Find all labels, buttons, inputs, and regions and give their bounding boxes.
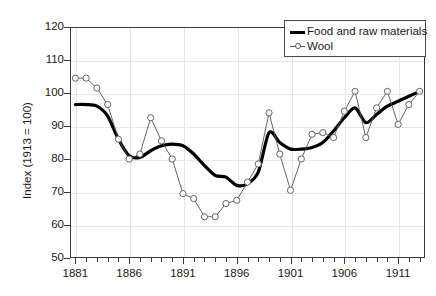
y-axis-tick-mark: [64, 192, 70, 193]
x-axis-tick-mark-minor: [86, 258, 87, 262]
gridline-vertical: [238, 28, 239, 257]
x-axis-tick-mark-minor: [97, 258, 98, 262]
x-axis-tick-mark-minor: [204, 258, 205, 262]
x-axis-tick-mark-minor: [226, 258, 227, 262]
gridline-vertical: [76, 28, 77, 257]
y-axis-tick-mark: [64, 225, 70, 226]
x-axis-tick-label: 1891: [160, 267, 206, 279]
y-axis-tick-label: 90: [24, 120, 64, 132]
y-axis-tick-label: 80: [24, 153, 64, 165]
x-axis-tick-mark-minor: [334, 258, 335, 262]
gridline-vertical: [399, 28, 400, 257]
y-axis-tick-mark: [64, 60, 70, 61]
x-axis-tick-mark: [398, 258, 399, 264]
gridline-vertical: [292, 28, 293, 257]
y-axis-tick-label: 70: [24, 186, 64, 198]
x-axis-tick-mark: [291, 258, 292, 264]
legend-label-wool: Wool: [307, 40, 333, 53]
x-axis-tick-label: 1886: [106, 267, 152, 279]
x-axis-tick-label: 1906: [321, 267, 367, 279]
x-axis-tick-mark-minor: [258, 258, 259, 262]
circle-marker-line-icon: [289, 40, 307, 54]
x-axis-tick-mark-minor: [172, 258, 173, 262]
y-axis-tick-label: 50: [24, 252, 64, 264]
chart-figure: Index (1913 = 100) 5060708090100110120 1…: [0, 0, 436, 296]
x-axis-tick-mark-minor: [118, 258, 119, 262]
x-axis-tick-mark-minor: [151, 258, 152, 262]
y-axis-tick-mark: [64, 126, 70, 127]
y-axis-tick-label: 110: [24, 54, 64, 66]
x-axis-tick-mark-minor: [387, 258, 388, 262]
x-axis-tick-mark-minor: [215, 258, 216, 262]
gridline-vertical: [130, 28, 131, 257]
x-axis-tick-mark: [129, 258, 130, 264]
x-axis-tick-mark: [344, 258, 345, 264]
x-axis-tick-label: 1881: [52, 267, 98, 279]
x-axis-tick-mark-minor: [269, 258, 270, 262]
gridline-vertical: [345, 28, 346, 257]
y-axis-tick-label: 60: [24, 219, 64, 231]
x-axis-tick-mark-minor: [366, 258, 367, 262]
x-axis-tick-mark-minor: [377, 258, 378, 262]
y-axis-tick-label: 120: [24, 21, 64, 33]
y-axis-tick-mark: [64, 258, 70, 259]
y-axis-tick-mark: [64, 159, 70, 160]
x-axis-tick-mark-minor: [409, 258, 410, 262]
x-axis-tick-mark-minor: [140, 258, 141, 262]
x-axis-tick-mark: [237, 258, 238, 264]
gridline-horizontal: [71, 127, 424, 128]
x-axis-tick-mark-minor: [248, 258, 249, 262]
legend-item-wool: Wool: [289, 39, 421, 54]
x-axis-tick-mark-minor: [323, 258, 324, 262]
x-axis-tick-label: 1896: [214, 267, 260, 279]
y-axis-tick-label: 100: [24, 87, 64, 99]
x-axis-tick-mark: [183, 258, 184, 264]
gridline-horizontal: [71, 226, 424, 227]
y-axis-tick-mark: [64, 27, 70, 28]
x-axis-tick-mark-minor: [194, 258, 195, 262]
x-axis-tick-mark-minor: [420, 258, 421, 262]
x-axis-tick-mark: [75, 258, 76, 264]
gridline-horizontal: [71, 61, 424, 62]
x-axis-tick-label: 1901: [268, 267, 314, 279]
gridline-horizontal: [71, 94, 424, 95]
x-axis-tick-mark-minor: [280, 258, 281, 262]
x-axis-tick-mark-minor: [301, 258, 302, 262]
thick-line-icon: [289, 25, 307, 39]
chart-legend: Food and raw materials Wool: [284, 20, 426, 57]
gridline-horizontal: [71, 160, 424, 161]
x-axis-tick-mark-minor: [312, 258, 313, 262]
x-axis-tick-mark-minor: [355, 258, 356, 262]
y-axis-title: Index (1913 = 100): [21, 56, 34, 246]
gridline-vertical: [184, 28, 185, 257]
x-axis-tick-mark-minor: [161, 258, 162, 262]
plot-area: [70, 27, 425, 258]
x-axis-tick-mark-minor: [108, 258, 109, 262]
x-axis-tick-label: 1911: [375, 267, 421, 279]
y-axis-tick-mark: [64, 93, 70, 94]
legend-item-food: Food and raw materials: [289, 24, 421, 39]
legend-label-food: Food and raw materials: [307, 25, 427, 38]
gridline-horizontal: [71, 193, 424, 194]
